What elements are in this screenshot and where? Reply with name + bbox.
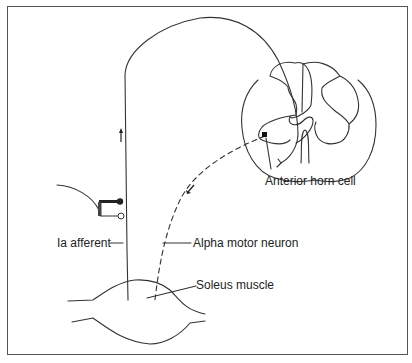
label-soleus-muscle: Soleus muscle xyxy=(196,278,274,292)
ia-afferent-fiber xyxy=(125,17,298,300)
anterior-horn-cell-body xyxy=(262,132,267,137)
label-anterior-horn-cell: Anterior horn cell xyxy=(265,174,356,188)
spinal-dorsal-median xyxy=(302,64,303,112)
spinal-ventral-median xyxy=(301,130,309,163)
efferent-direction-arrow-icon xyxy=(186,185,194,194)
spinal-grey-matter xyxy=(259,62,313,144)
spindle-arc xyxy=(57,185,99,210)
soleus-muscle-top xyxy=(68,280,205,314)
soleus-muscle-bottom xyxy=(72,318,205,344)
ia-afferent-terminal xyxy=(277,159,281,167)
label-alpha-motor-neuron: Alpha motor neuron xyxy=(193,236,298,250)
afferent-direction-arrow-icon xyxy=(119,128,123,142)
alpha-motor-neuron-fiber xyxy=(155,136,265,300)
muscle-spindle-receptor xyxy=(98,198,124,219)
label-ia-afferent: Ia afferent xyxy=(57,236,111,250)
